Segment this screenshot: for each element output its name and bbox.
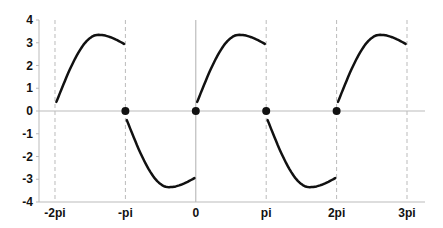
curve-segment-4 [268, 120, 336, 187]
y-tick-label: 3 [26, 36, 33, 50]
x-tick-label: -2pi [44, 206, 65, 220]
y-tick-label: 1 [26, 81, 33, 95]
x-tick-label: pi [261, 206, 272, 220]
curve-segment-3 [197, 35, 265, 102]
chart: 43210-1-2-3-4 -2pi-pi0pi2pi3pi [0, 0, 443, 228]
axes [39, 20, 425, 202]
y-tick-label: 2 [26, 59, 33, 73]
x-tick-label: 0 [192, 206, 199, 220]
y-tick-label: -3 [22, 172, 33, 186]
x-tick-label: 3pi [398, 206, 415, 220]
zero-point-marker [262, 107, 270, 115]
curve-segment-5 [338, 35, 406, 102]
zero-point-marker [333, 107, 341, 115]
y-tick-label: 0 [26, 104, 33, 118]
zero-point-marker [192, 107, 200, 115]
curve-segment-1 [56, 35, 124, 102]
x-axis-ticks: -2pi-pi0pi2pi3pi [44, 206, 415, 220]
x-tick-label: -pi [118, 206, 133, 220]
y-tick-label: -2 [22, 150, 33, 164]
y-tick-label: -4 [22, 195, 33, 209]
y-tick-label: -1 [22, 127, 33, 141]
zero-point-marker [121, 107, 129, 115]
x-tick-label: 2pi [328, 206, 345, 220]
y-axis-ticks: 43210-1-2-3-4 [22, 13, 39, 209]
curve-segment-2 [127, 120, 195, 187]
y-tick-label: 4 [26, 13, 33, 27]
